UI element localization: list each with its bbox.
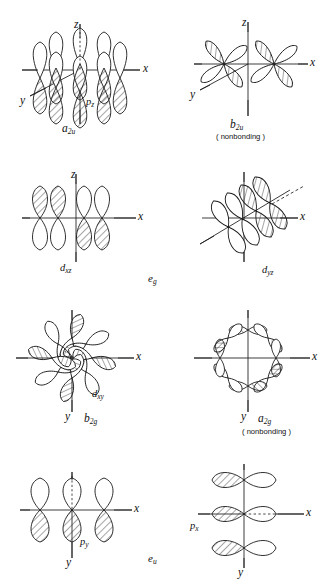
orbital-label-py: py [80, 536, 89, 549]
panel-dyz: x [186, 166, 324, 276]
mo-symmetry-figure: z x y pz a2u [0, 0, 324, 585]
axis-label-y: y [65, 410, 70, 422]
orbital-subscript: z [91, 100, 94, 109]
orbital-label-dyz: dyz [262, 264, 274, 277]
axis-label-y: y [66, 556, 71, 568]
axis-label-x: x [143, 62, 148, 74]
axis-label-z: z [74, 18, 78, 30]
axis-label-y: y [241, 410, 246, 422]
axis-label-x: x [134, 502, 139, 514]
symmetry-subscript: 2u [236, 123, 244, 132]
panel-a2g-drawing [186, 300, 324, 425]
axis-label-z: z [242, 16, 246, 28]
axis-label-x: x [312, 350, 317, 362]
axis-label-x: x [138, 210, 143, 222]
orbital-label-dxy: dxy [92, 388, 104, 401]
symmetry-label-a2u: a2u [62, 122, 75, 136]
axis-label-x: x [136, 350, 141, 362]
symmetry-subscript: 2g [264, 417, 272, 426]
orbital-label-px: px [190, 520, 199, 533]
axes-a2g [194, 310, 310, 412]
lobes-dyz [208, 174, 291, 257]
orbital-subscript: yz [267, 268, 273, 277]
row-label-eg: eg [148, 272, 157, 286]
row-label-subscript: u [153, 557, 157, 566]
axis-label-y: y [238, 566, 243, 578]
axis-label-z: z [71, 168, 75, 180]
symmetry-label-b2u: b2u [230, 118, 243, 132]
panel-b2g: x y dxy [10, 300, 160, 425]
orbital-subscript: y [85, 540, 88, 549]
panel-px-drawing [188, 458, 324, 578]
orbital-label-dxz: dxz [60, 262, 72, 275]
orbital-subscript: xz [65, 266, 71, 275]
panel-py: x y py [14, 462, 164, 572]
row-label-eu: eu [148, 552, 157, 566]
panel-a2u-drawing [8, 18, 158, 138]
row-label-subscript: g [153, 277, 157, 286]
panel-dxz: z x [14, 166, 159, 276]
panel-b2u: z x y [176, 18, 321, 138]
symmetry-subscript: 2g [90, 417, 98, 426]
symmetry-subscript: 2u [68, 127, 76, 136]
axis-label-x: x [310, 56, 315, 68]
axis-label-y: y [190, 88, 195, 100]
panel-py-drawing [14, 462, 164, 572]
orbital-subscript: x [195, 524, 198, 533]
axis-label-x: x [306, 506, 311, 518]
panel-b2u-drawing [176, 18, 321, 138]
panel-b2g-drawing [10, 300, 160, 425]
panel-px: x y px [188, 458, 324, 578]
dashed-diagonal-dyz [272, 186, 304, 204]
orbital-subscript: xy [97, 392, 104, 401]
symmetry-label-b2g: b2g [84, 412, 97, 426]
nonbonding-note-a2g: ( nonbonding ) [242, 427, 291, 436]
panel-a2u: z x y pz [8, 18, 158, 138]
orbital-label-pz: pz [86, 96, 94, 109]
panel-a2g: x y [186, 300, 324, 425]
axis-label-x: x [300, 210, 305, 222]
axis-label-y: y [20, 94, 25, 106]
symmetry-label-a2g: a2g [258, 412, 271, 426]
nonbonding-note-b2u: ( nonbonding ) [216, 132, 265, 141]
